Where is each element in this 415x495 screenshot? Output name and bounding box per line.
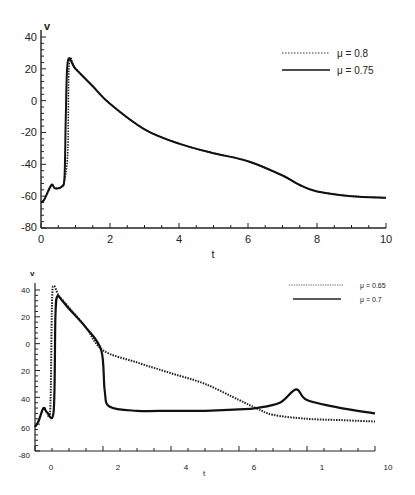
bottom-xtick-label: 1 bbox=[320, 463, 325, 472]
bottom-ytick-label: 0 bbox=[26, 340, 31, 349]
top-xtick-label: 4 bbox=[176, 233, 182, 245]
top-xtick-label: 10 bbox=[380, 233, 392, 245]
bottom-ytick-label: 40 bbox=[21, 286, 30, 295]
series-line-mu-0.75 bbox=[41, 58, 386, 202]
bottom-ytick-label: -80 bbox=[18, 451, 30, 460]
top-legend: μ = 0.8 μ = 0.75 bbox=[282, 48, 374, 76]
bottom-ytick-label: 20 bbox=[21, 367, 30, 376]
top-ytick-label: -60 bbox=[21, 190, 37, 202]
series-line-mu-0.65 bbox=[35, 286, 375, 427]
bottom-y-axis-label: v bbox=[30, 269, 35, 278]
top-x-ticks bbox=[41, 223, 386, 228]
bottom-xtick-label: 2 bbox=[116, 463, 121, 472]
top-xtick-label: 2 bbox=[107, 233, 113, 245]
bottom-ytick-label: 20 bbox=[21, 313, 30, 322]
legend-label: μ = 0.8 bbox=[337, 48, 368, 59]
bottom-ytick-label: 60 bbox=[21, 424, 30, 433]
bottom-xtick-label: 0 bbox=[49, 463, 54, 472]
top-xtick-label: 0 bbox=[38, 233, 44, 245]
series-line-mu-0.8 bbox=[41, 57, 386, 202]
bottom-chart: 40 20 0 20 40 60 -80 0 2 4 6 1 10 v t μ … bbox=[18, 269, 393, 478]
top-chart: 40 20 0 -20 -40 -60 -80 0 2 4 6 8 10 v t… bbox=[21, 20, 392, 260]
top-ytick-label: 0 bbox=[31, 95, 37, 107]
top-xtick-label: 8 bbox=[314, 233, 320, 245]
bottom-xtick-label: 6 bbox=[252, 463, 257, 472]
bottom-legend: μ = 0.65 μ = 0.7 bbox=[289, 282, 386, 304]
legend-label: μ = 0.75 bbox=[337, 65, 374, 76]
top-ytick-label: -20 bbox=[21, 126, 37, 138]
top-y-axis-label: v bbox=[44, 20, 51, 32]
series-line-mu-0.7 bbox=[35, 296, 375, 427]
top-x-axis-label: t bbox=[211, 248, 214, 260]
legend-label: μ = 0.65 bbox=[360, 282, 386, 290]
figure: 40 20 0 -20 -40 -60 -80 0 2 4 6 8 10 v t… bbox=[0, 0, 415, 495]
bottom-x-axis-label: t bbox=[203, 469, 206, 478]
top-ytick-label: -80 bbox=[21, 221, 37, 233]
top-ytick-label: 40 bbox=[25, 31, 37, 43]
top-ytick-label: 20 bbox=[25, 63, 37, 75]
top-xtick-label: 6 bbox=[245, 233, 251, 245]
bottom-xtick-label: 4 bbox=[184, 463, 189, 472]
bottom-ytick-label: 40 bbox=[21, 395, 30, 404]
bottom-xtick-label: 10 bbox=[384, 463, 393, 472]
legend-label: μ = 0.7 bbox=[360, 296, 382, 304]
top-ytick-label: -40 bbox=[21, 158, 37, 170]
bottom-x-ticks bbox=[35, 446, 375, 451]
